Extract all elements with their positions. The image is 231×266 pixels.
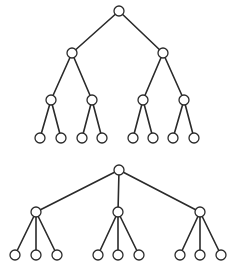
tree-node: [77, 133, 87, 143]
tree-node: [158, 48, 168, 58]
tree-edge: [143, 100, 153, 138]
tree-edge: [180, 212, 200, 255]
tree-node: [113, 207, 123, 217]
tree-node: [31, 207, 41, 217]
tree-edge: [36, 170, 119, 212]
tree-node: [56, 133, 66, 143]
tree-edge: [15, 212, 36, 255]
tree-edge: [98, 212, 118, 255]
tree-edge: [118, 170, 119, 212]
tree-node: [114, 6, 124, 16]
tree-edge: [173, 100, 184, 138]
tree-node: [35, 133, 45, 143]
tree-node: [31, 250, 41, 260]
tree-node: [148, 133, 158, 143]
tree-edge: [72, 53, 92, 100]
tree-edge: [118, 212, 139, 255]
tree-node: [93, 250, 103, 260]
tree-edge: [36, 212, 57, 255]
tree-node: [195, 207, 205, 217]
tree-node: [138, 95, 148, 105]
tree-node: [168, 133, 178, 143]
tree-edge: [51, 100, 61, 138]
tree-edge: [40, 100, 51, 138]
tree-node: [46, 95, 56, 105]
tree-node: [195, 250, 205, 260]
tree-node: [113, 250, 123, 260]
tree-edge: [72, 11, 119, 53]
tree-edge: [51, 53, 72, 100]
tree-node: [67, 48, 77, 58]
tree-node: [87, 95, 97, 105]
ternary-tree: [10, 165, 226, 260]
tree-edge: [163, 53, 184, 100]
tree-node: [128, 133, 138, 143]
tree-edge: [200, 212, 221, 255]
tree-node: [10, 250, 20, 260]
tree-node: [179, 95, 189, 105]
tree-node: [97, 133, 107, 143]
binary-tree-edges: [40, 11, 194, 138]
tree-diagram-canvas: [0, 0, 231, 266]
tree-edge: [92, 100, 102, 138]
binary-tree-nodes: [35, 6, 199, 143]
tree-edge: [184, 100, 194, 138]
tree-node: [175, 250, 185, 260]
tree-node: [52, 250, 62, 260]
tree-node: [114, 165, 124, 175]
binary-tree: [35, 6, 199, 143]
tree-node: [216, 250, 226, 260]
tree-node: [134, 250, 144, 260]
tree-node: [189, 133, 199, 143]
tree-edge: [119, 170, 200, 212]
tree-edge: [133, 100, 143, 138]
tree-edge: [119, 11, 163, 53]
tree-edge: [82, 100, 92, 138]
tree-edge: [143, 53, 163, 100]
